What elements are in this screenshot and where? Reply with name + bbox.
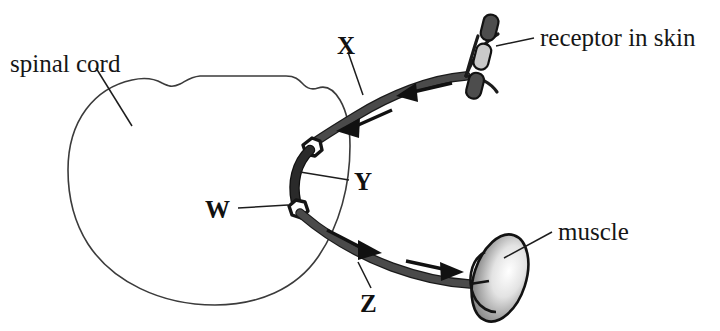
label-letter-x: X xyxy=(337,32,355,59)
label-spinal-cord: spinal cord xyxy=(10,50,121,77)
spinal-cord-shape xyxy=(68,76,350,305)
muscle-shape xyxy=(461,227,538,329)
label-receptor-in-skin: receptor in skin xyxy=(540,24,696,51)
label-muscle: muscle xyxy=(558,218,629,245)
reflex-arc-diagram: spinal cord receptor in skin muscle X Y … xyxy=(0,0,720,331)
label-letter-z: Z xyxy=(360,290,377,317)
receptor-leader xyxy=(496,38,534,46)
diagram-canvas: spinal cord receptor in skin muscle X Y … xyxy=(0,0,720,331)
label-letter-w: W xyxy=(205,196,230,223)
label-leader-z xyxy=(358,262,371,288)
receptor-in-skin-shape xyxy=(465,13,500,100)
label-letter-y: Y xyxy=(354,168,372,195)
